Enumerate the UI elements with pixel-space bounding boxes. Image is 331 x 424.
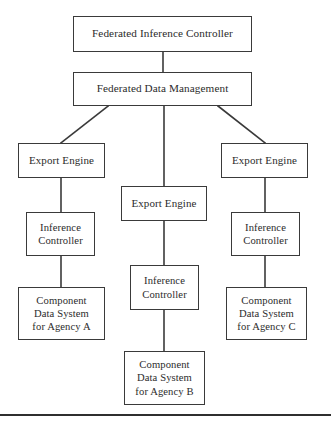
node-label: Inference Controller <box>35 221 86 247</box>
node-federated-inference-controller: Federated Inference Controller <box>73 16 252 52</box>
node-export-engine-middle: Export Engine <box>121 186 207 221</box>
node-export-engine-left: Export Engine <box>18 143 105 178</box>
node-inference-controller-middle: Inference Controller <box>130 265 199 310</box>
node-component-data-system-a: Component Data System for Agency A <box>18 287 105 340</box>
node-inference-controller-right: Inference Controller <box>231 212 300 256</box>
node-label: Export Engine <box>26 154 97 168</box>
node-label: Export Engine <box>229 154 300 168</box>
node-federated-data-management: Federated Data Management <box>73 72 252 106</box>
bottom-divider <box>0 414 331 416</box>
node-component-data-system-b: Component Data System for Agency B <box>124 351 205 405</box>
node-export-engine-right: Export Engine <box>221 143 308 178</box>
node-inference-controller-left: Inference Controller <box>26 212 95 256</box>
node-component-data-system-c: Component Data System for Agency C <box>226 287 307 340</box>
connector-fdm-to-export-left <box>61 106 108 143</box>
connector-fdm-to-export-right <box>218 106 265 143</box>
node-label: Federated Inference Controller <box>89 27 236 41</box>
node-label: Component Data System for Agency B <box>132 358 196 397</box>
node-label: Federated Data Management <box>94 82 232 96</box>
node-label: Inference Controller <box>139 274 190 300</box>
node-label: Export Engine <box>128 197 199 211</box>
node-label: Component Data System for Agency C <box>234 294 298 333</box>
architecture-diagram: Federated Inference Controller Federated… <box>0 0 331 424</box>
node-label: Component Data System for Agency A <box>29 294 93 333</box>
node-label: Inference Controller <box>240 221 291 247</box>
